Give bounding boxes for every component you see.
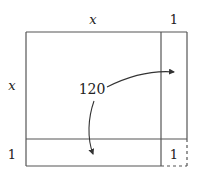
arrow-to-bottom-strip bbox=[89, 101, 94, 154]
left-x-label: x bbox=[8, 78, 16, 93]
left-one-label: 1 bbox=[8, 147, 16, 162]
corner-cell-label: 1 bbox=[170, 147, 178, 162]
outer-rectangle bbox=[26, 32, 187, 166]
completing-the-square-diagram: x 1 x 1 120 1 bbox=[0, 0, 199, 176]
top-one-label: 1 bbox=[170, 12, 178, 27]
top-x-label: x bbox=[89, 12, 97, 27]
center-value-label: 120 bbox=[79, 81, 106, 97]
arrow-to-right-strip bbox=[107, 72, 174, 87]
